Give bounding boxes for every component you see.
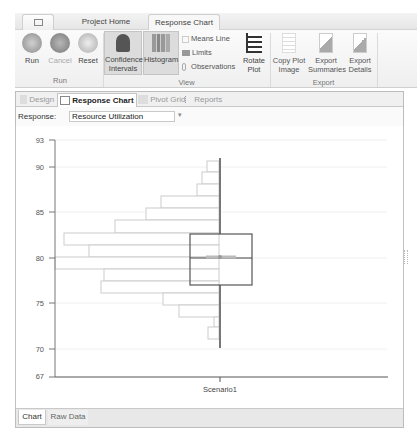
design-icon bbox=[20, 95, 27, 104]
rotate-plot-icon bbox=[246, 33, 262, 53]
x-category-label: Scenario1 bbox=[190, 385, 250, 394]
copy-document-icon bbox=[282, 33, 296, 53]
chart-icon bbox=[60, 96, 70, 105]
app-menu-button[interactable] bbox=[22, 14, 54, 31]
means-line-toggle[interactable]: Means Line bbox=[182, 34, 230, 43]
tab-project-home[interactable]: Project Home bbox=[64, 14, 148, 31]
export-summaries-button[interactable]: Export Summaries bbox=[308, 33, 344, 74]
copy-plot-image-button[interactable]: Copy Plot Image bbox=[271, 33, 307, 74]
limits-icon bbox=[182, 50, 190, 56]
observations-toggle[interactable]: Observations bbox=[182, 62, 235, 71]
reports-icon bbox=[185, 96, 192, 103]
grid-icon bbox=[138, 95, 148, 104]
tab-raw-data[interactable]: Raw Data bbox=[48, 410, 88, 425]
means-line-icon bbox=[182, 36, 189, 43]
histogram-button[interactable]: Histogram bbox=[143, 31, 179, 75]
group-label-export: Export bbox=[271, 78, 376, 87]
y-tick-label: 80 bbox=[28, 254, 44, 263]
doc-tab-response-chart[interactable]: Response Chart bbox=[57, 93, 137, 107]
doc-tab-pivot-grid[interactable]: Pivot Grid bbox=[138, 93, 185, 107]
export-details-button[interactable]: Export Details bbox=[345, 33, 375, 74]
response-chart bbox=[16, 126, 405, 408]
tab-response-chart[interactable]: Response Chart bbox=[148, 14, 220, 31]
group-label-view: View bbox=[104, 78, 269, 87]
chart-area bbox=[15, 126, 404, 408]
doc-tab-design[interactable]: Design bbox=[20, 93, 54, 107]
divider bbox=[377, 33, 378, 87]
response-select[interactable]: Resource Utilization bbox=[69, 111, 175, 122]
rotate-plot-button[interactable]: Rotate Plot bbox=[240, 33, 268, 74]
y-tick-label: 93 bbox=[28, 136, 44, 145]
limits-toggle[interactable]: Limits bbox=[182, 48, 212, 57]
tab-chart[interactable]: Chart bbox=[18, 410, 46, 425]
observations-icon bbox=[182, 63, 186, 71]
y-tick-label: 70 bbox=[28, 345, 44, 354]
stop-icon bbox=[50, 33, 70, 53]
group-label-run: Run bbox=[18, 76, 102, 85]
export-summaries-icon bbox=[319, 33, 333, 53]
run-button[interactable]: Run bbox=[18, 33, 46, 65]
app-menu-icon bbox=[34, 19, 43, 26]
confidence-intervals-button[interactable]: Confidence Intervals bbox=[104, 31, 142, 75]
run-icon bbox=[22, 33, 42, 53]
cancel-button[interactable]: Cancel bbox=[46, 33, 74, 65]
splitter-handle[interactable] bbox=[404, 250, 408, 264]
response-label: Response: bbox=[18, 112, 56, 121]
y-tick-label: 90 bbox=[28, 163, 44, 172]
y-tick-label: 75 bbox=[28, 299, 44, 308]
reset-icon bbox=[78, 33, 98, 53]
doc-tab-reports[interactable]: Reports bbox=[185, 93, 222, 107]
histogram-icon bbox=[152, 34, 170, 52]
bell-curve-icon bbox=[116, 34, 130, 52]
y-tick-label: 85 bbox=[28, 208, 44, 217]
export-details-icon bbox=[353, 33, 367, 53]
y-tick-label: 67 bbox=[28, 372, 44, 381]
reset-button[interactable]: Reset bbox=[74, 33, 102, 65]
chevron-down-icon[interactable]: ▾ bbox=[176, 111, 184, 122]
